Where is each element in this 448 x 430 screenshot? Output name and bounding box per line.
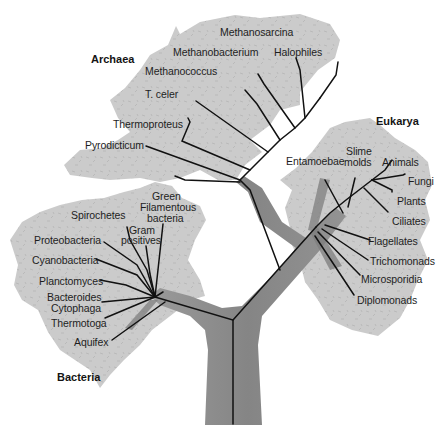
label-methanococcus: Methanococcus [145,65,217,77]
label-methanobacterium: Methanobacterium [173,46,259,58]
label-flagellates: Flagellates [368,235,418,247]
label-gram-positives-line2: positives [121,234,161,246]
label-trichomonads: Trichomonads [370,255,435,267]
label-proteobacteria: Proteobacteria [34,234,101,246]
label-slime-molds-line2: molds [344,156,372,168]
label-t-celer: T. celer [145,88,179,100]
domain-label-archaea: Archaea [91,53,135,65]
label-planctomyces: Planctomyces [39,275,103,287]
label-fungi: Fungi [408,175,434,187]
label-thermotoga: Thermotoga [51,317,107,329]
label-microsporidia: Microsporidia [361,273,422,285]
label-plants: Plants [397,195,426,207]
label-pyrodicticum: Pyrodicticum [85,139,144,151]
label-aquifex: Aquifex [74,336,109,348]
phylogenetic-tree-diagram: Archaea Eukarya Bacteria Methanosarcina … [0,0,448,430]
label-ciliates: Ciliates [392,215,426,227]
label-methanosarcina: Methanosarcina [220,26,294,38]
label-entamoebae: Entamoebae [286,155,345,167]
domain-label-eukarya: Eukarya [376,115,420,127]
label-cyanobacteria: Cyanobacteria [32,254,99,266]
label-diplomonads: Diplomonads [357,294,417,306]
label-halophiles: Halophiles [274,46,322,58]
label-animals: Animals [382,156,419,168]
domain-label-bacteria: Bacteria [57,371,101,383]
label-cytophaga: Cytophaga [51,302,101,314]
label-green-filamentous-line3: bacteria [147,212,184,224]
label-spirochetes: Spirochetes [71,209,125,221]
label-thermoproteus: Thermoproteus [113,118,183,130]
